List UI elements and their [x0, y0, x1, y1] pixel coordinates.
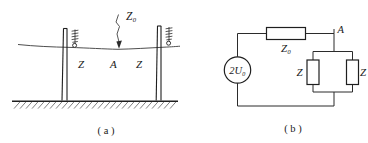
tower-right-pole [156, 26, 157, 101]
tower-right [156, 26, 172, 101]
tower-left-pole [62, 29, 64, 101]
label-voltage-source: 2U₀ [229, 65, 246, 76]
label-z0-circuit: Z₀ [281, 42, 291, 54]
insulator-right-disc-1 [166, 28, 173, 29]
insulator-left-disc-2 [72, 33, 79, 34]
insulator-right-disc-3 [166, 33, 173, 34]
z0-leader-annotation [116, 15, 122, 49]
panel-b-group: 2U₀ A Z₀ Z Z ( b ) [224, 24, 367, 135]
tower-left [62, 29, 78, 101]
insulator-left-disc-4 [72, 39, 79, 40]
label-z-left-branch: Z [296, 66, 303, 78]
label-node-a-line: A [109, 58, 117, 70]
figure-container: Z₀ Z A Z ( a ) [0, 0, 368, 143]
insulator-left-disc-3 [72, 36, 79, 37]
insulator-right-disc-2 [166, 31, 173, 32]
z0-leader-arrowhead [116, 41, 122, 49]
resistor-z-right-body [347, 60, 359, 85]
label-node-a-circuit: A [337, 24, 345, 35]
caption-panel-a: ( a ) [98, 125, 115, 137]
caption-panel-b: ( b ) [284, 123, 302, 135]
ground-hatching [14, 102, 176, 109]
conductor-wire [18, 45, 180, 50]
z0-leader-line [116, 15, 120, 43]
insulator-right-attachment-point [167, 41, 171, 45]
technical-figure: Z₀ Z A Z ( a ) [0, 0, 368, 143]
resistor-z0-body [267, 28, 306, 40]
tower-left-insulator [72, 30, 79, 48]
label-z-right-branch: Z [360, 66, 367, 78]
label-z-left-section: Z [78, 58, 85, 70]
insulator-right-disc-5 [166, 39, 171, 40]
insulator-left-attachment-point [73, 43, 77, 47]
insulator-right-disc-4 [166, 36, 173, 37]
resistor-z-left-body [307, 60, 319, 85]
tower-right-insulator [166, 27, 173, 45]
insulator-left-disc-1 [72, 30, 79, 31]
panel-a-group: Z₀ Z A Z ( a ) [12, 10, 180, 137]
label-z-right-section: Z [136, 58, 143, 70]
label-z0-line: Z₀ [126, 10, 136, 22]
insulator-left-disc-5 [72, 42, 77, 43]
ground-group [12, 101, 178, 108]
